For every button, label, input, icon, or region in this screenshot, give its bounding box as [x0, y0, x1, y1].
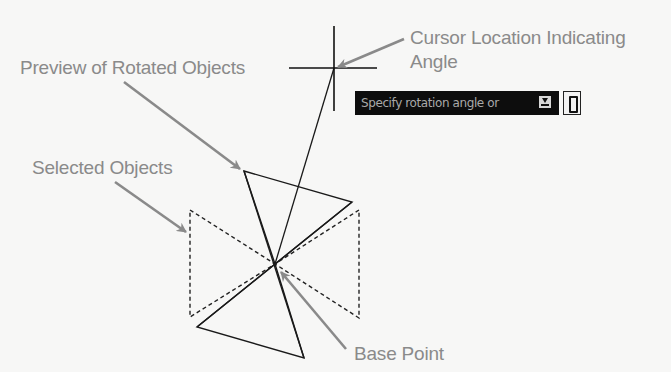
- cursor-arrow: [338, 39, 404, 67]
- pin-icon[interactable]: [563, 91, 581, 115]
- base-point-arrow: [281, 272, 346, 349]
- cursor-angle-label: Angle: [410, 52, 458, 71]
- base-point-label: Base Point: [354, 344, 444, 363]
- preview-label: Preview of Rotated Objects: [20, 58, 245, 77]
- down-arrow-icon[interactable]: [539, 96, 551, 108]
- selected-objects-label: Selected Objects: [32, 158, 172, 177]
- rotate-command-illustration: Cursor Location Indicating Angle Preview…: [0, 0, 671, 372]
- rubber-band-line: [275, 68, 334, 264]
- selected-arrow: [115, 182, 186, 232]
- cursor-location-label: Cursor Location Indicating: [410, 28, 626, 47]
- annotation-arrows: [115, 39, 404, 349]
- dynamic-input-tooltip[interactable]: Specify rotation angle or: [355, 91, 559, 115]
- preview-arrow: [124, 82, 240, 169]
- drawing-canvas: [0, 0, 671, 372]
- tooltip-prompt: Specify rotation angle or: [361, 96, 499, 110]
